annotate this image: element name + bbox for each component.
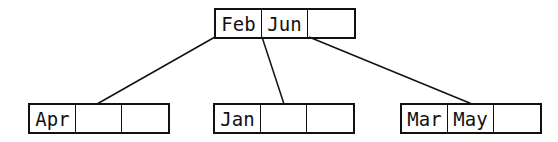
key-cell [76, 105, 122, 132]
key-cell [307, 105, 353, 132]
child-node-mar-may: Mar May [400, 103, 542, 134]
key-cell: Feb [216, 10, 262, 37]
key-cell [308, 10, 354, 37]
key-cell: Jan [215, 105, 261, 132]
key-cell: May [448, 105, 494, 132]
key-cell [122, 105, 168, 132]
key-cell [494, 105, 540, 132]
key-cell: Apr [30, 105, 76, 132]
child-node-jan: Jan [213, 103, 355, 134]
root-node: Feb Jun [214, 8, 356, 39]
key-cell [261, 105, 307, 132]
key-cell: Mar [402, 105, 448, 132]
child-node-apr: Apr [28, 103, 170, 134]
key-cell: Jun [262, 10, 308, 37]
